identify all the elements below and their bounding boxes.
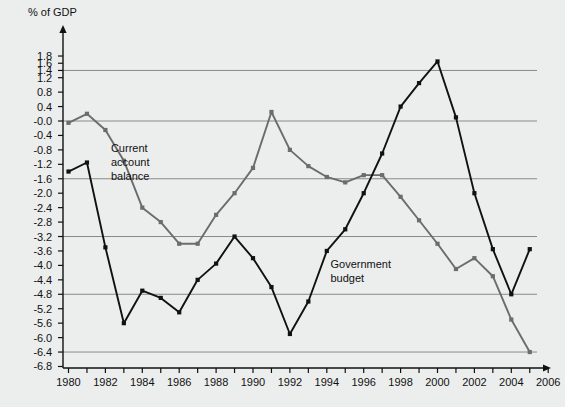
data-point-marker [399,104,403,108]
data-point-marker [417,218,421,222]
y-tick-label: -0.0 [20,115,52,127]
data-point-marker [435,59,439,63]
data-point-marker [177,310,181,314]
data-point-marker [528,247,532,251]
data-point-marker [380,151,384,155]
x-tick-label: 1986 [159,376,199,388]
x-tick-label: 1996 [344,376,384,388]
x-tick-label: 2002 [454,376,494,388]
y-tick-label: -4.0 [20,259,52,271]
data-point-marker [472,256,476,260]
series-label-current-account-balance: Current account balance [111,141,150,183]
data-point-marker [103,128,107,132]
data-point-marker [528,350,532,354]
x-ticks [69,368,549,373]
data-point-marker [343,180,347,184]
data-point-marker [66,169,70,173]
y-tick-label: -2.8 [20,216,52,228]
data-point-marker [85,160,89,164]
x-tick-label: 2000 [418,376,458,388]
data-point-marker [435,242,439,246]
y-tick-label: -1.6 [20,173,52,185]
data-point-marker [214,213,218,217]
data-point-marker [269,285,273,289]
data-point-marker [380,173,384,177]
y-tick-label: -2.4 [20,202,52,214]
data-point-marker [454,267,458,271]
x-tick-label: 1982 [85,376,125,388]
y-tick-label: -1.2 [20,158,52,170]
x-tick-label: 1990 [233,376,273,388]
data-point-marker [196,278,200,282]
data-point-marker [122,321,126,325]
chart-canvas [0,0,565,407]
data-point-marker [140,289,144,293]
series-label-government-budget: Government budget [330,257,391,285]
data-point-marker [159,220,163,224]
x-tick-label: 1984 [122,376,162,388]
y-tick-label: 0.8 [20,86,52,98]
y-tick-label: -6.8 [20,360,52,372]
gridlines [63,70,537,352]
x-tick-label: 1988 [196,376,236,388]
data-point-marker [85,112,89,116]
x-tick-label: 2004 [491,376,531,388]
y-tick-label: -5.6 [20,317,52,329]
y-tick-label: -2.0 [20,187,52,199]
data-point-marker [159,296,163,300]
y-tick-label: -0.4 [20,129,52,141]
y-tick-label: -6.4 [20,346,52,358]
axes [59,25,551,372]
data-point-marker [140,206,144,210]
data-point-marker [509,292,513,296]
data-point-marker [288,332,292,336]
data-point-marker [362,191,366,195]
data-point-marker [454,115,458,119]
x-tick-label: 2006 [528,376,565,388]
x-tick-label: 1992 [270,376,310,388]
data-point-marker [269,110,273,114]
data-point-marker [177,242,181,246]
x-tick-label: 1994 [307,376,347,388]
y-tick-label: -4.8 [20,288,52,300]
y-tick-label: -6.0 [20,332,52,344]
data-point-marker [399,195,403,199]
data-point-marker [196,242,200,246]
y-tick-label: -0.8 [20,144,52,156]
chart-container: % of GDP 1.81.61.41.20.80.4-0.0-0.4-0.8-… [0,0,565,407]
data-point-marker [232,191,236,195]
data-point-marker [251,256,255,260]
data-point-marker [103,245,107,249]
data-point-marker [232,234,236,238]
data-point-marker [362,173,366,177]
data-point-marker [472,191,476,195]
data-point-marker [306,299,310,303]
data-point-marker [66,121,70,125]
data-point-marker [509,317,513,321]
data-point-marker [288,148,292,152]
data-point-marker [306,164,310,168]
y-ticks [58,56,63,366]
y-tick-label: 0.4 [20,101,52,113]
y-tick-label: 1.2 [20,72,52,84]
data-point-marker [325,175,329,179]
data-point-marker [251,166,255,170]
y-tick-label: -4.4 [20,274,52,286]
data-point-marker [343,227,347,231]
y-tick-label: -3.2 [20,231,52,243]
data-point-marker [417,81,421,85]
x-tick-label: 1980 [49,376,89,388]
data-point-marker [325,249,329,253]
data-point-marker [491,274,495,278]
y-axis-arrow [59,25,66,33]
y-tick-label: -3.6 [20,245,52,257]
data-point-marker [491,247,495,251]
data-point-marker [214,262,218,266]
x-tick-label: 1998 [381,376,421,388]
y-tick-label: -5.2 [20,303,52,315]
x-axis-arrow [543,364,551,371]
